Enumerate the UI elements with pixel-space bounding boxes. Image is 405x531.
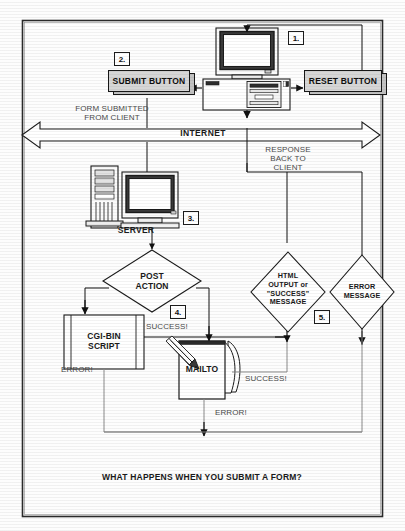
step-marker-3-label: 3. — [188, 214, 195, 223]
submit-button[interactable]: SUBMIT BUTTON — [108, 70, 190, 92]
cgi-bin-line2: SCRIPT — [74, 342, 134, 352]
step-marker-1: 1. — [288, 31, 304, 45]
edge-post-to-cgi — [85, 288, 109, 310]
form-submitted-label: FORM SUBMITTED FROM CLIENT — [56, 105, 168, 123]
step-marker-3: 3. — [183, 211, 199, 225]
step-marker-2: 2. — [114, 52, 130, 66]
response-back-label: RESPONSE BACK TO CLIENT — [249, 146, 327, 173]
step-marker-4-label: 4. — [175, 308, 182, 317]
cgi-bin-label: CGI-BIN SCRIPT — [74, 332, 134, 351]
html-output-label: HTML OUTPUT or "SUCCESS" MESSAGE — [259, 272, 317, 307]
cgi-success-label: SUCCESS! — [146, 323, 206, 332]
reset-button-label: RESET BUTTON — [309, 76, 377, 86]
step-marker-4: 4. — [170, 305, 186, 319]
reset-button[interactable]: RESET BUTTON — [304, 70, 382, 92]
mailto-success-label: SUCCESS! — [245, 375, 305, 384]
mailto-error-label: ERROR! — [215, 409, 267, 418]
error-message-line1: ERROR — [336, 282, 388, 291]
server-label: SERVER — [103, 226, 169, 236]
client-computer-icon — [203, 28, 290, 110]
post-action-label: POST ACTION — [122, 272, 182, 291]
diagram-caption: WHAT HAPPENS WHEN YOU SUBMIT A FORM? — [62, 473, 342, 483]
form-submitted-line2: FROM CLIENT — [56, 114, 168, 123]
step-marker-5: 5. — [314, 310, 330, 324]
error-message-line2: MESSAGE — [336, 291, 388, 300]
response-line3: CLIENT — [249, 164, 327, 173]
mailto-label: MAILTO — [180, 365, 224, 375]
server-icon — [86, 166, 179, 228]
cgi-error-label: ERROR! — [61, 366, 113, 375]
step-marker-5-label: 5. — [319, 313, 326, 322]
submit-button-label: SUBMIT BUTTON — [113, 76, 186, 86]
html-output-line4: MESSAGE — [259, 298, 317, 307]
diagram-canvas: SUBMIT BUTTON RESET BUTTON 1. 2. 3. 4. 5… — [0, 0, 405, 531]
step-marker-2-label: 2. — [119, 55, 126, 64]
edge-response-branch — [247, 163, 362, 345]
post-action-line2: ACTION — [122, 282, 182, 292]
internet-label: INTERNET — [160, 129, 246, 139]
error-message-label: ERROR MESSAGE — [336, 282, 388, 300]
step-marker-1-label: 1. — [293, 34, 300, 43]
